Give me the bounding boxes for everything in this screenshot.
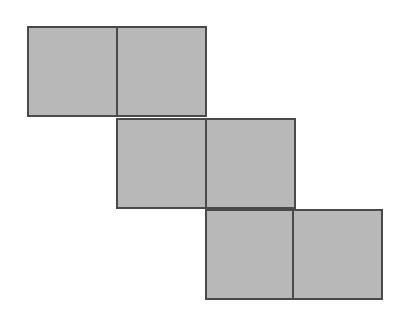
net-squares [28, 27, 382, 299]
net-square-2 [117, 27, 206, 116]
net-square-3 [117, 119, 206, 208]
net-square-6 [293, 210, 382, 299]
net-square-4 [206, 119, 295, 208]
net-square-5 [206, 210, 295, 299]
net-square-1 [28, 27, 117, 116]
cube-net-diagram [0, 0, 399, 328]
